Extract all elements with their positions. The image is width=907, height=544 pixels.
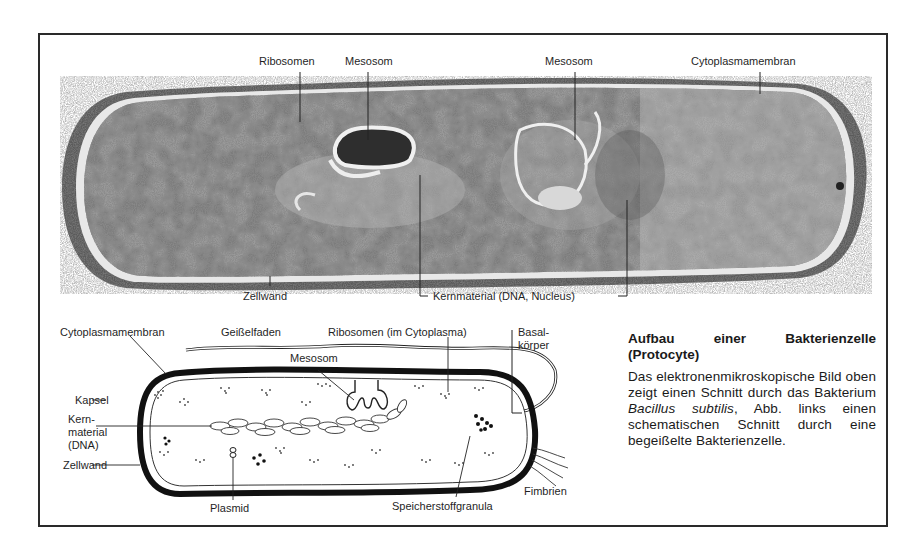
label-plasmid: Plasmid — [210, 502, 249, 514]
label-mesosom-schematic: Mesosom — [290, 352, 338, 364]
label-kernmaterial-1: Kern- — [68, 413, 95, 425]
label-cytoplasmamembran-schematic: Cytoplasmamembran — [60, 326, 165, 338]
label-ribosomen-cytoplasma: Ribosomen (im Cytoplasma) — [328, 326, 467, 338]
schematic-bacterium — [0, 0, 907, 544]
label-basalkoerper-1: Basal- — [518, 326, 549, 338]
caption-body-part1: Das elektronenmikroskopische Bild oben z… — [628, 369, 876, 400]
caption-species: Bacillus subtilis — [628, 401, 734, 416]
label-basalkoerper-2: körper — [518, 339, 549, 351]
label-fimbrien: Fimbrien — [524, 485, 567, 497]
label-kernmaterial-3: (DNA) — [68, 439, 99, 451]
label-speicherstoffgranula: Speicherstoffgranula — [392, 500, 493, 512]
label-kapsel: Kapsel — [75, 394, 109, 406]
label-geisselfaden: Geißelfaden — [221, 326, 281, 338]
label-kernmaterial-2: material — [68, 426, 107, 438]
caption-title: Aufbau einer Bakterienzelle (Protocyte) — [628, 331, 876, 363]
figure-caption: Aufbau einer Bakterienzelle (Protocyte) … — [628, 331, 876, 449]
caption-body: Das elektronenmikroskopische Bild oben z… — [628, 369, 876, 449]
label-zellwand-schematic: Zellwand — [63, 459, 107, 471]
